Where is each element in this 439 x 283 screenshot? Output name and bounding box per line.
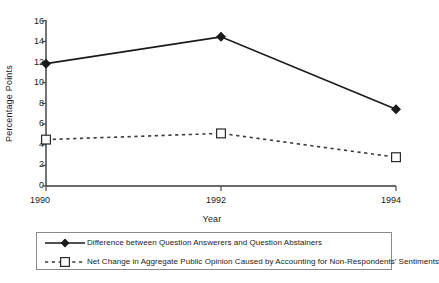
data-point-marker	[392, 153, 401, 162]
data-point-marker	[391, 104, 401, 114]
legend-label: Net Change in Aggregate Public Opinion C…	[87, 257, 439, 267]
legend-label: Difference between Question Answerers an…	[87, 238, 322, 248]
legend-marker-dashed-square-icon	[43, 255, 87, 269]
legend-item-difference: Difference between Question Answerers an…	[37, 233, 391, 252]
data-point-marker	[42, 135, 51, 144]
x-axis-title: Year	[0, 214, 424, 224]
x-tick-label: 1994	[381, 196, 401, 205]
data-point-marker	[217, 129, 226, 138]
legend-marker-solid-diamond-icon	[43, 236, 87, 250]
x-tick-label: 1990	[30, 196, 50, 205]
series-line-difference	[46, 37, 396, 109]
x-axis-ticks	[46, 186, 396, 191]
data-point-marker	[41, 59, 51, 69]
x-tick-label: 1992	[206, 196, 226, 205]
legend-item-net-change: Net Change in Aggregate Public Opinion C…	[37, 252, 391, 271]
data-point-marker	[216, 32, 226, 42]
legend: Difference between Question Answerers an…	[36, 232, 392, 270]
